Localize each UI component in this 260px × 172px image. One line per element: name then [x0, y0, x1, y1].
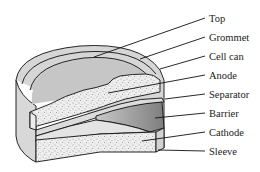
label-barrier: Barrier	[209, 108, 239, 119]
leader-separator	[165, 94, 205, 99]
label-sleeve: Sleeve	[209, 146, 237, 157]
cell-body	[16, 46, 164, 163]
label-cathode: Cathode	[209, 127, 244, 138]
sleeve	[156, 128, 164, 152]
leader-grommet	[140, 37, 205, 59]
label-grommet: Grommet	[209, 32, 249, 43]
label-separator: Separator	[209, 89, 250, 100]
label-anode: Anode	[209, 70, 237, 81]
battery-diagram: Top Grommet Cell can Anode Separator Bar…	[0, 0, 260, 172]
leader-top	[94, 18, 205, 57]
label-cell-can: Cell can	[209, 51, 244, 62]
leader-sleeve	[158, 150, 205, 151]
label-top: Top	[209, 13, 225, 24]
labels: Top Grommet Cell can Anode Separator Bar…	[209, 13, 250, 157]
leader-cell-can	[160, 56, 205, 69]
